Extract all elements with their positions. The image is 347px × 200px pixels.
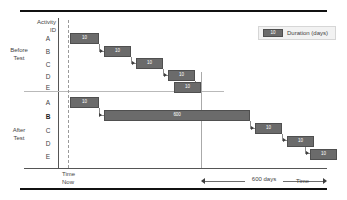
bar-value-before-c: 10 (147, 61, 152, 66)
bar-after-b[interactable]: 600 (104, 110, 250, 121)
bar-value-before-b: 10 (115, 49, 120, 54)
row-label-after-d: D (40, 140, 56, 147)
bar-value-after-a: 10 (82, 100, 87, 105)
arrow-after-e (306, 151, 309, 155)
arrow-after-d (283, 138, 286, 142)
bar-before-a[interactable]: 10 (70, 33, 99, 44)
x-axis-label: Time (296, 178, 309, 184)
bar-after-d[interactable]: 10 (287, 136, 314, 147)
legend-label: Duration (days) (287, 30, 328, 36)
row-label-after-b: B (40, 113, 56, 120)
row-label-before-e: E (40, 84, 56, 91)
bar-before-e[interactable]: 10 (174, 82, 201, 93)
bar-after-c[interactable]: 10 (255, 123, 282, 134)
arrow-after-b (99, 113, 102, 117)
row-label-before-b: B (40, 48, 56, 55)
arrow-before-b (100, 49, 103, 53)
arrow-before-d (164, 73, 167, 77)
row-label-before-c: C (40, 61, 56, 68)
y-axis (58, 18, 59, 168)
bar-before-c[interactable]: 10 (136, 58, 163, 69)
arrow-before-c (132, 61, 135, 65)
top-rule (20, 10, 327, 12)
delay-arrow-left-icon (201, 178, 205, 184)
delay-annotation-label: 600 days (245, 176, 283, 182)
bar-value-after-e: 10 (321, 152, 326, 157)
bar-value-before-d: 10 (179, 73, 184, 78)
bar-value-after-b: 600 (173, 113, 180, 118)
row-label-after-c: C (40, 127, 56, 134)
group-label-before-test: Before Test (6, 47, 32, 62)
legend-swatch-value: 10 (270, 31, 275, 36)
time-now-label: Time Now (62, 171, 75, 186)
bar-after-a[interactable]: 10 (70, 97, 99, 108)
bottom-rule (20, 188, 327, 190)
bar-before-b[interactable]: 10 (104, 46, 131, 57)
bar-value-before-e: 10 (185, 85, 190, 90)
legend: 10 Duration (days) (258, 26, 336, 40)
arrow-after-c (251, 126, 254, 130)
bar-value-before-a: 10 (82, 36, 87, 41)
bar-value-after-c: 10 (266, 126, 271, 131)
delay-arrow-right-icon (323, 178, 327, 184)
bar-before-d[interactable]: 10 (168, 70, 195, 81)
row-label-before-d: D (40, 73, 56, 80)
row-label-after-e: E (40, 153, 56, 160)
time-now-line (68, 20, 69, 168)
y-axis-title: Activity ID (28, 19, 56, 34)
bar-value-after-d: 10 (298, 139, 303, 144)
group-label-after-test: After Test (6, 127, 32, 142)
row-label-after-a: A (40, 99, 56, 106)
bar-after-e[interactable]: 10 (310, 149, 337, 160)
x-axis (24, 168, 327, 169)
gantt-chart-figure: Activity ID Before Test After Test A B C… (0, 0, 347, 200)
legend-swatch: 10 (263, 29, 283, 37)
row-label-before-a: A (40, 35, 56, 42)
